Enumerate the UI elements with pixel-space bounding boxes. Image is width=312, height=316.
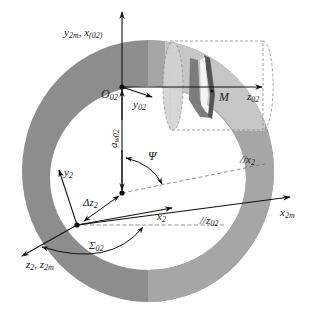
O02-point [119, 84, 124, 89]
y02-axis [122, 87, 152, 97]
label-sigma02: Σ02 [88, 239, 104, 253]
junction-point [119, 190, 124, 195]
label-y02: y02 [132, 98, 146, 112]
M-point [210, 89, 213, 92]
psi-arc [126, 158, 162, 184]
label-psi: Ψ [148, 149, 158, 163]
label-x2m: x2m [279, 206, 295, 220]
label-y2m-x02: y2m, x(02) [63, 26, 103, 40]
origin2-point [74, 222, 79, 227]
label-x2: x2 [156, 210, 166, 224]
label-aw02: aw02 [107, 129, 121, 148]
label-z2-z2m: z2, z2m [25, 258, 54, 272]
gear-diagram: y2m, x(02) O02 y02 z02 M aw02 Ψ //x2 y2 … [0, 0, 312, 316]
parallel-x2-line [122, 164, 265, 193]
label-y2: y2 [63, 166, 73, 180]
label-M: M [218, 90, 230, 104]
label-z02: z02 [246, 90, 259, 104]
label-dz2: Δz2 [82, 196, 98, 210]
label-par-z02: //z02 [199, 214, 218, 228]
